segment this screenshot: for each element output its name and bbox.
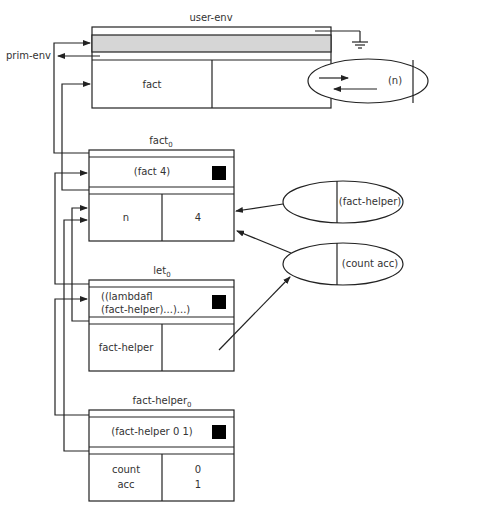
- binding-name-acc: acc: [117, 479, 134, 491]
- environment-diagram: [0, 0, 490, 513]
- frame-title-fact0: fact0: [149, 135, 173, 151]
- frame-expression-let0-line2: (fact-helper)...)...): [101, 304, 190, 316]
- frame-fact-helper0: [89, 410, 234, 501]
- binding-name-fact-helper: fact-helper: [99, 342, 154, 354]
- frame-title-user-env: user-env: [189, 12, 232, 24]
- closure-params-n: (n): [388, 75, 402, 87]
- frame-fact0: [89, 150, 234, 241]
- frame-expression-fact0: (fact 4): [134, 166, 170, 178]
- binding-value-n: 4: [195, 212, 201, 224]
- binding-value-count: 0: [195, 464, 201, 476]
- binding-value-acc: 1: [195, 479, 201, 491]
- binding-name-fact: fact: [142, 79, 161, 91]
- binding-name-n: n: [123, 212, 129, 224]
- frame-expression-fact-helper0: (fact-helper 0 1): [111, 426, 192, 438]
- frame-user-env: [92, 27, 331, 108]
- frame-title-fact-helper0: fact-helper0: [132, 395, 191, 411]
- binding-name-count: count: [112, 464, 140, 476]
- prim-env-label: prim-env: [6, 50, 51, 62]
- closure-params-count-acc: (count acc): [342, 258, 398, 270]
- closure-params-fact-helper: (fact-helper): [339, 196, 401, 208]
- frame-title-let0: let0: [153, 265, 170, 281]
- frame-expression-let0-line1: ((lambdafl: [101, 291, 153, 303]
- closure-n: [308, 59, 428, 103]
